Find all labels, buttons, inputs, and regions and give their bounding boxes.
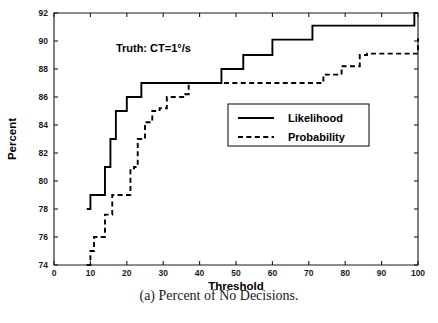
y-tick-label: 90 (39, 36, 49, 46)
x-tick-label: 10 (86, 268, 96, 278)
chart-canvas: 0102030405060708090100 74767880828486889… (0, 0, 438, 290)
x-tick-label: 90 (377, 268, 387, 278)
x-tick-label: 100 (411, 268, 425, 278)
y-tick-label: 74 (39, 260, 49, 270)
x-tick-label: 30 (158, 268, 168, 278)
figure-container: 0102030405060708090100 74767880828486889… (0, 0, 438, 323)
x-axis-tick-labels: 0102030405060708090100 (52, 268, 426, 278)
series-line-probability (87, 38, 418, 265)
x-tick-label: 50 (231, 268, 241, 278)
x-tick-label: 20 (122, 268, 132, 278)
figure-caption: (a) Percent of No Decisions. (0, 288, 438, 304)
y-tick-label: 78 (39, 204, 49, 214)
x-tick-label: 40 (195, 268, 205, 278)
plot-annotations: Truth: CT=1°/s (116, 42, 191, 54)
x-tick-label: 60 (268, 268, 278, 278)
y-tick-label: 80 (39, 176, 49, 186)
y-tick-label: 84 (39, 120, 49, 130)
y-tick-label: 82 (39, 148, 49, 158)
legend-label-likelihood: Likelihood (288, 112, 343, 124)
y-tick-label: 88 (39, 64, 49, 74)
y-tick-label: 86 (39, 92, 49, 102)
x-tick-label: 80 (340, 268, 350, 278)
x-tick-label: 0 (52, 268, 57, 278)
chart-legend[interactable]: LikelihoodProbability (228, 104, 369, 146)
y-axis-tick-labels: 74767880828486889092 (39, 8, 49, 270)
y-tick-label: 92 (39, 8, 49, 18)
y-axis-label: Percent (6, 118, 18, 160)
x-tick-label: 70 (304, 268, 314, 278)
y-tick-label: 76 (39, 232, 49, 242)
truth-annotation: Truth: CT=1°/s (116, 42, 191, 54)
legend-label-probability: Probability (288, 131, 346, 143)
